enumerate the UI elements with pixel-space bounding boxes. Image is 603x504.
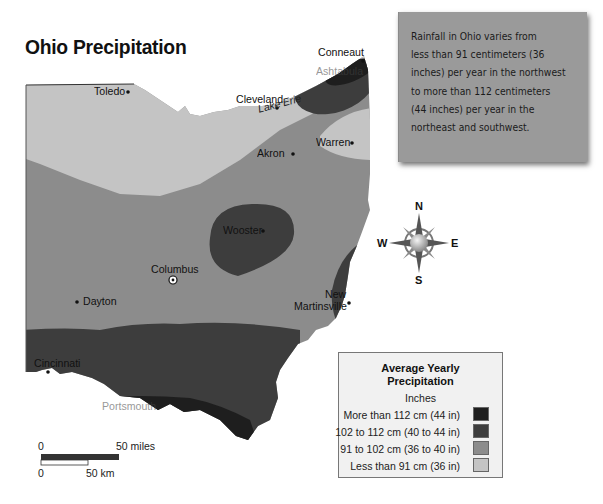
akron-dot [291, 152, 295, 156]
legend-item-label: 91 to 102 cm (36 to 40 in) [340, 443, 460, 455]
city-label-ashtabula: Ashtabula [316, 65, 363, 77]
columbus-capital-star-icon [169, 276, 177, 284]
compass-south-label: S [415, 274, 422, 286]
compass-east-label: E [451, 237, 458, 249]
scale-miles-zero: 0 [38, 440, 44, 452]
conneaut-dot [361, 59, 365, 63]
compass-rose-icon [389, 213, 449, 273]
city-label-toledo: Toledo [94, 85, 125, 97]
city-label-new: New [325, 288, 346, 300]
cincinnati-dot [46, 370, 50, 374]
toledo-dot [126, 90, 130, 94]
city-label-dayton: Dayton [83, 295, 117, 307]
note-line: northeast and southwest. [411, 119, 583, 137]
city-label-cincinnati: Cincinnati [34, 357, 80, 369]
city-label-conneaut: Conneaut [318, 46, 364, 58]
city-label-martinsville: Martinsville [294, 300, 347, 312]
legend-title-line: Precipitation [339, 375, 502, 388]
city-label-wooster: Wooster [223, 224, 262, 236]
legend-subtitle: Inches [339, 392, 502, 404]
city-label-akron: Akron [257, 147, 285, 159]
legend-item-label: Less than 91 cm (36 in) [350, 460, 460, 472]
scale-miles-label: 50 miles [116, 440, 155, 452]
city-label-warren: Warren [316, 136, 350, 148]
legend-item-102-112cm: 102 to 112 cm (40 to 44 in) [339, 424, 502, 440]
legend-item-less-91cm: Less than 91 cm (36 in) [339, 458, 502, 474]
dayton-dot [75, 300, 79, 304]
city-label-cleveland: Cleveland [236, 93, 283, 105]
rainfall-note-text: Rainfall in Ohio varies from less than 9… [411, 28, 583, 137]
legend-item-label: More than 112 cm (44 in) [343, 409, 460, 421]
rainfall-note-card: Rainfall in Ohio varies from less than 9… [398, 12, 587, 162]
new-martinsville-dot [347, 301, 351, 305]
legend-item-label: 102 to 112 cm (40 to 44 in) [335, 426, 460, 438]
zone-102-112cm-south [0, 323, 300, 504]
note-line: inches) per year in the northwest [411, 64, 583, 82]
legend-item-91-102cm: 91 to 102 cm (36 to 40 in) [339, 441, 502, 457]
legend-swatch [473, 458, 489, 472]
legend-title: Average Yearly Precipitation [339, 362, 502, 388]
scale-bar [41, 454, 119, 465]
legend-swatch [473, 424, 489, 438]
precipitation-legend: Average Yearly Precipitation Inches More… [338, 352, 503, 478]
compass-west-label: W [377, 237, 387, 249]
note-line: less than 91 centimeters (36 [411, 46, 583, 64]
legend-swatch [473, 441, 489, 455]
city-label-columbus: Columbus [151, 263, 199, 275]
city-label-portsmouth: Portsmouth [102, 400, 156, 412]
legend-item-over-112cm: More than 112 cm (44 in) [339, 407, 502, 423]
scale-km-zero: 0 [38, 467, 44, 479]
legend-swatch [473, 407, 489, 421]
warren-dot [350, 141, 354, 145]
note-line: Rainfall in Ohio varies from [411, 28, 583, 46]
note-line: (44 inches) per year in the [411, 101, 583, 119]
compass-north-label: N [415, 200, 423, 212]
legend-title-line: Average Yearly [339, 362, 502, 375]
note-line: to more than 112 centimeters [411, 83, 583, 101]
scale-km-label: 50 km [86, 467, 115, 479]
